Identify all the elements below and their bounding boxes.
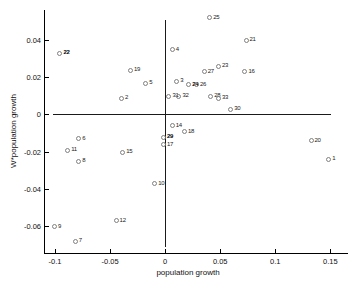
data-point-label: 11	[71, 146, 77, 153]
x-tick-label: 0.05	[213, 257, 228, 266]
x-tick-label: 0	[163, 257, 167, 266]
circle-marker-icon	[161, 142, 166, 147]
data-point-label: 5	[149, 79, 152, 86]
x-tick	[220, 249, 221, 253]
circle-marker-icon	[143, 81, 148, 86]
circle-marker-icon	[242, 69, 247, 74]
data-point-label: 20	[315, 137, 321, 144]
circle-marker-icon	[76, 136, 81, 141]
data-point-label: 7	[79, 237, 82, 244]
data-point-label: 6	[82, 135, 85, 142]
circle-marker-icon	[202, 69, 207, 74]
data-point-label: 15	[126, 148, 132, 155]
x-tick	[110, 249, 111, 253]
horizontal-zero-line	[53, 114, 331, 115]
data-point-label: 2	[125, 94, 128, 101]
circle-marker-icon	[207, 15, 212, 20]
x-tick-label: -0.05	[102, 257, 119, 266]
data-point-label: 23	[222, 62, 228, 69]
circle-marker-icon	[216, 96, 221, 101]
circle-marker-icon	[176, 94, 181, 99]
y-tick	[45, 152, 49, 153]
scatter-plot-figure: population growth W*population growth -0…	[0, 0, 355, 286]
data-point-label: 29	[167, 133, 173, 140]
circle-marker-icon	[216, 64, 221, 69]
circle-marker-icon	[174, 79, 179, 84]
circle-marker-icon	[128, 68, 133, 73]
data-point-label: 16	[248, 68, 254, 75]
data-point-label: 17	[167, 141, 173, 148]
circle-marker-icon	[182, 129, 187, 134]
circle-marker-icon	[52, 224, 57, 229]
circle-marker-icon	[57, 51, 62, 56]
x-axis-label: population growth	[156, 268, 219, 277]
y-tick-label: 0.02	[17, 73, 41, 82]
circle-marker-icon	[186, 82, 191, 87]
data-point-label: 10	[158, 180, 164, 187]
circle-marker-icon	[244, 38, 249, 43]
circle-marker-icon	[208, 94, 213, 99]
x-tick-label: -0.1	[49, 257, 62, 266]
y-tick	[45, 226, 49, 227]
y-tick-label: 0	[17, 110, 41, 119]
y-tick-label: 0.04	[17, 35, 41, 44]
x-tick	[275, 249, 276, 253]
data-point-label: 33	[222, 94, 228, 101]
y-tick-label: -0.06	[17, 222, 41, 231]
y-tick	[45, 114, 49, 115]
y-tick	[45, 189, 49, 190]
x-tick	[330, 249, 331, 253]
circle-marker-icon	[114, 218, 119, 223]
data-point-label: 18	[188, 128, 194, 135]
y-tick	[45, 40, 49, 41]
data-point-label: 25	[213, 14, 219, 21]
data-point-label: 8	[82, 157, 85, 164]
circle-marker-icon	[76, 159, 81, 164]
y-axis-label: W*population growth	[9, 94, 18, 168]
data-point-label: 21	[250, 36, 256, 43]
circle-marker-icon	[152, 181, 157, 186]
y-axis-spine	[44, 10, 45, 254]
data-point-label: 30	[234, 105, 240, 112]
circle-marker-icon	[170, 47, 175, 52]
data-point-label: 4	[176, 46, 179, 53]
data-point-label: 32	[182, 92, 188, 99]
circle-marker-icon	[161, 135, 166, 140]
circle-marker-icon	[326, 157, 331, 162]
data-point-label: 26	[200, 81, 206, 88]
circle-marker-icon	[228, 107, 233, 112]
y-tick-label: -0.02	[17, 147, 41, 156]
circle-marker-icon	[73, 239, 78, 244]
x-axis-spine	[44, 253, 348, 254]
circle-marker-icon	[119, 96, 124, 101]
x-tick-label: 0.1	[270, 257, 280, 266]
data-point-label: 1	[332, 155, 335, 162]
circle-marker-icon	[170, 123, 175, 128]
y-tick	[45, 77, 49, 78]
data-point-label: 3	[180, 77, 183, 84]
data-point-label: 22	[63, 49, 69, 56]
data-point-label: 9	[58, 223, 61, 230]
data-point-label: 12	[120, 217, 126, 224]
x-tick	[55, 249, 56, 253]
circle-marker-icon	[309, 138, 314, 143]
y-tick-label: -0.04	[17, 184, 41, 193]
circle-marker-icon	[120, 150, 125, 155]
x-tick-label: 0.15	[323, 257, 338, 266]
data-point-label: 19	[134, 66, 140, 73]
circle-marker-icon	[65, 148, 70, 153]
data-point-label: 27	[208, 68, 214, 75]
circle-marker-icon	[166, 94, 171, 99]
data-point-label: 14	[176, 122, 182, 129]
x-tick	[165, 249, 166, 253]
